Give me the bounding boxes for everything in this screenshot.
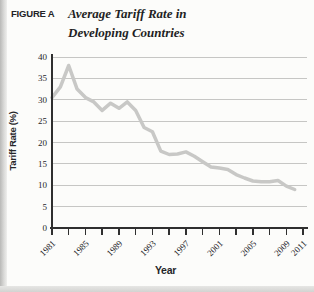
x-tick-label-1981: 1981 [38,238,58,258]
y-tick-label-0: 0 [43,223,48,233]
y-tick-label-20: 20 [38,138,48,148]
y-tick-label-30: 30 [38,95,48,105]
x-tick-label-2009: 2009 [272,238,292,258]
x-tick-label-1989: 1989 [105,238,125,258]
x-tick-label-2005: 2005 [238,238,258,258]
y-axis-title: Tariff Rate (%) [7,111,18,170]
y-tick-label-40: 40 [38,52,48,62]
y-tick-label-10: 10 [38,180,48,190]
x-tick-label-2001: 2001 [205,238,225,258]
tariff-line-chart: 0510152025303540198119851989199319972001… [0,0,314,292]
figure-panel: FIGURE A Average Tariff Rate in Developi… [0,0,314,292]
x-tick-label-1997: 1997 [172,238,192,258]
x-tick-label-1985: 1985 [71,238,91,258]
x-tick-label-1993: 1993 [138,238,158,258]
x-axis-title: Year [155,264,176,276]
y-tick-label-5: 5 [43,202,48,212]
y-tick-label-25: 25 [38,116,48,126]
x-tick-label-2011: 2011 [289,238,309,258]
data-line-0 [52,66,295,190]
y-tick-label-15: 15 [38,159,48,169]
y-tick-label-35: 35 [38,73,48,83]
